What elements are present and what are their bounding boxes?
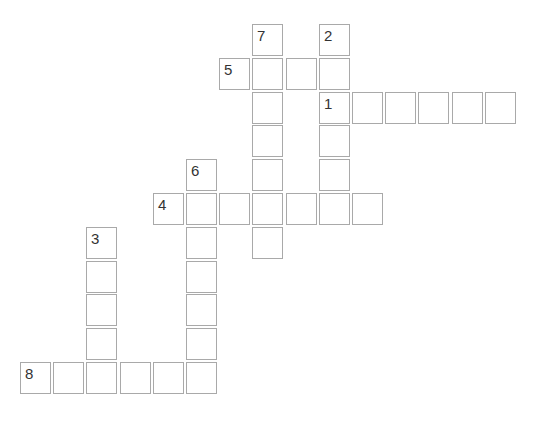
crossword-cell[interactable] (86, 362, 117, 394)
crossword-cell[interactable] (418, 92, 449, 124)
crossword-cell[interactable] (252, 92, 283, 124)
crossword-cell[interactable] (252, 125, 283, 157)
crossword-cell[interactable] (352, 92, 383, 124)
crossword-cell[interactable] (120, 362, 151, 394)
crossword-cell[interactable]: 7 (252, 24, 283, 56)
crossword-cell[interactable] (186, 362, 217, 394)
crossword-cell[interactable] (252, 193, 283, 225)
crossword-cell[interactable] (385, 92, 416, 124)
crossword-cell[interactable] (186, 227, 217, 259)
crossword-cell[interactable] (319, 159, 350, 191)
crossword-cell[interactable] (319, 58, 350, 90)
clue-number: 3 (91, 231, 99, 246)
crossword-cell[interactable] (219, 193, 250, 225)
crossword-cell[interactable]: 3 (86, 227, 117, 259)
crossword-cell[interactable] (252, 159, 283, 191)
crossword-cell[interactable] (86, 294, 117, 326)
crossword-cell[interactable] (485, 92, 516, 124)
crossword-cell[interactable] (252, 227, 283, 259)
clue-number: 6 (191, 163, 199, 178)
clue-number: 1 (324, 96, 332, 111)
crossword-cell[interactable]: 4 (153, 193, 184, 225)
crossword-cell[interactable]: 1 (319, 92, 350, 124)
crossword-cell[interactable] (186, 261, 217, 293)
crossword-cell[interactable]: 2 (319, 24, 350, 56)
crossword-cell[interactable] (86, 328, 117, 360)
crossword-cell[interactable] (153, 362, 184, 394)
crossword-cell[interactable] (186, 193, 217, 225)
crossword-cell[interactable]: 5 (219, 58, 250, 90)
crossword-cell[interactable] (319, 193, 350, 225)
crossword-cell[interactable] (286, 193, 317, 225)
crossword-cell[interactable]: 6 (186, 159, 217, 191)
crossword-cell[interactable] (186, 328, 217, 360)
crossword-cell[interactable] (53, 362, 84, 394)
crossword-cell[interactable]: 8 (20, 362, 51, 394)
clue-number: 7 (257, 28, 265, 43)
crossword-cell[interactable] (319, 125, 350, 157)
clue-number: 2 (324, 28, 332, 43)
clue-number: 8 (25, 366, 33, 381)
crossword-grid: 12345678 (0, 0, 536, 424)
crossword-cell[interactable] (286, 58, 317, 90)
crossword-cell[interactable] (186, 294, 217, 326)
crossword-cell[interactable] (252, 58, 283, 90)
crossword-cell[interactable] (452, 92, 483, 124)
clue-number: 5 (224, 62, 232, 77)
clue-number: 4 (158, 197, 166, 212)
crossword-cell[interactable] (86, 261, 117, 293)
crossword-cell[interactable] (352, 193, 383, 225)
